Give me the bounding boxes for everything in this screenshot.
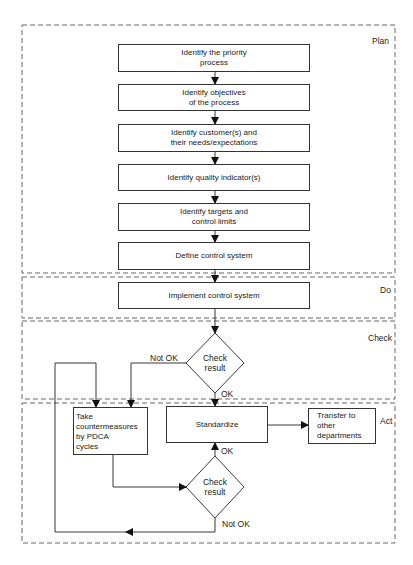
edge-label-ok: OK (221, 389, 233, 399)
step-transfer-departments: Transfer to other departments (308, 408, 376, 444)
step-label: Standardize (196, 420, 239, 430)
step-label: Identify customer(s) and their needs/exp… (171, 128, 258, 148)
act-decision-label: Check result (195, 477, 235, 497)
step-label: Identify quality indicator(s) (168, 173, 261, 183)
step-label: Identify the priority process (181, 48, 246, 68)
phase-label-check: Check (368, 333, 392, 343)
edge-label-act-ok: OK (221, 446, 233, 456)
check-decision-label: Check result (195, 353, 235, 373)
edge-label-not-ok: Not OK (150, 353, 178, 363)
edge-label-act-not-ok: Not OK (222, 519, 250, 529)
step-standardize: Standardize (166, 406, 268, 443)
step-label: Take countermeasures by PDCA cycles (76, 412, 138, 452)
step-label: Implement control system (168, 291, 259, 301)
step-implement-control-system: Implement control system (118, 282, 310, 309)
step-take-countermeasures: Take countermeasures by PDCA cycles (73, 407, 148, 455)
step-label: Identify targets and control limits (180, 207, 248, 227)
phase-label-do: Do (380, 285, 391, 295)
step-label: Transfer to other departments (317, 411, 361, 441)
step-identify-quality-indicators: Identify quality indicator(s) (118, 164, 310, 191)
step-define-control-system: Define control system (118, 242, 310, 270)
step-identify-customers: Identify customer(s) and their needs/exp… (118, 124, 310, 152)
step-label: Identify objectives of the process (182, 88, 246, 108)
step-identify-priority-process: Identify the priority process (118, 44, 310, 72)
step-identify-targets: Identify targets and control limits (118, 203, 310, 231)
phase-label-plan: Plan (372, 36, 389, 46)
step-label: Define control system (176, 251, 253, 261)
phase-label-act: Act (380, 416, 392, 426)
step-identify-objectives: Identify objectives of the process (118, 84, 310, 111)
